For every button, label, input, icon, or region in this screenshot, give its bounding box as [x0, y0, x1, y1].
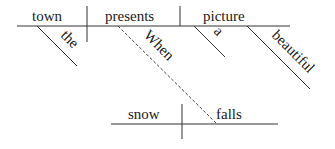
- subject-word: town: [32, 8, 63, 24]
- object-word: picture: [203, 8, 245, 24]
- sentence-diagram: town presents picture the When a beautif…: [0, 0, 335, 149]
- object-modifier-beautiful: beautiful: [269, 27, 318, 76]
- verb-word: presents: [105, 8, 154, 24]
- subordinate-verb-word: falls: [216, 106, 242, 122]
- subject-modifier-the: the: [58, 27, 83, 52]
- object-modifier-a: a: [211, 23, 227, 39]
- subordinate-subject-word: snow: [128, 106, 160, 122]
- connector-when: When: [141, 27, 178, 64]
